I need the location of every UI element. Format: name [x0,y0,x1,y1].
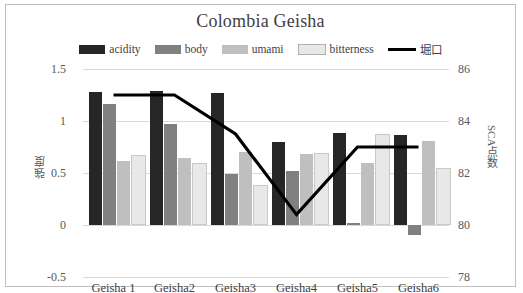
bar-groups: Geisha 1Geisha2Geisha3Geisha4Geisha5Geis… [83,69,449,277]
bar-group: Geisha2 [144,69,205,277]
x-axis-category-label: Geisha4 [266,281,327,293]
chart-title: Colombia Geisha [6,11,515,32]
bar-body [408,225,421,235]
bar-acidity [394,135,407,225]
legend-item-horiguchi: 堀口 [388,41,442,57]
y-tick-right: 86 [458,62,498,77]
gridline [83,277,449,278]
bar-umami [117,161,130,225]
bar-umami [300,154,313,225]
y-axis-label-right: SCA点数 [484,125,500,168]
bar-body [286,171,299,225]
bar-body [164,124,177,225]
x-axis-category-label: Geisha 1 [83,281,144,293]
bar-umami [178,158,191,225]
x-axis-category-label: Geisha5 [327,281,388,293]
bar-body [103,104,116,225]
bar-body [225,174,238,225]
chart-frame: Colombia Geisha acidity body umami bitte… [5,4,516,287]
legend-swatch-acidity [79,45,105,54]
x-axis-category-label: Geisha3 [205,281,266,293]
legend-item-body: body [155,43,208,55]
legend-line-horiguchi [388,48,416,51]
legend-swatch-umami [222,45,248,54]
bar-group: Geisha 1 [83,69,144,277]
x-axis-category-label: Geisha6 [388,281,449,293]
legend-item-acidity: acidity [79,43,140,55]
legend-label-bitterness: bitterness [330,43,374,55]
bar-group: Geisha3 [205,69,266,277]
bar-umami [422,141,435,225]
bar-group: Geisha4 [266,69,327,277]
y-tick-right: 80 [458,218,498,233]
legend-label-umami: umami [252,43,284,55]
bar-acidity [211,93,224,225]
legend-label-horiguchi: 堀口 [420,41,442,57]
x-axis-category-label: Geisha2 [144,281,205,293]
y-tick-right: 84 [458,114,498,129]
bar-group: Geisha5 [327,69,388,277]
bar-acidity [333,133,346,225]
y-tick-left: 1 [26,114,66,129]
legend-label-acidity: acidity [109,43,140,55]
legend-item-bitterness: bitterness [298,43,374,55]
bar-acidity [272,142,285,225]
y-tick-right: 78 [458,270,498,285]
bar-umami [239,152,252,225]
y-tick-left: 0.5 [26,166,66,181]
legend-label-body: body [185,43,208,55]
bar-group: Geisha6 [388,69,449,277]
bar-acidity [150,91,163,225]
legend-item-umami: umami [222,43,284,55]
legend-swatch-bitterness [298,44,326,55]
plot-area: Geisha 1Geisha2Geisha3Geisha4Geisha5Geis… [83,69,449,277]
y-tick-right: 82 [458,166,498,181]
bar-bitterness [436,168,451,225]
y-tick-left: 0 [26,218,66,233]
y-tick-left: -0.5 [26,270,66,285]
legend-swatch-body [155,45,181,54]
bar-acidity [89,92,102,225]
bar-body [347,223,360,225]
bar-umami [361,163,374,225]
chart-legend: acidity body umami bitterness 堀口 [6,41,515,57]
y-tick-left: 1.5 [26,62,66,77]
